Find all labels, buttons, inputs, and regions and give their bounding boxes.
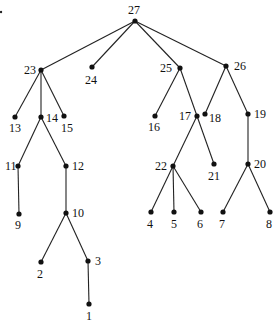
node-22 bbox=[170, 163, 175, 168]
edge-20-8 bbox=[248, 164, 270, 212]
node-6 bbox=[198, 209, 203, 214]
node-label-10: 10 bbox=[72, 206, 84, 220]
node-14 bbox=[38, 114, 43, 119]
node-label-6: 6 bbox=[197, 217, 203, 231]
node-label-13: 13 bbox=[9, 121, 21, 135]
node-16 bbox=[152, 113, 157, 118]
edge-25-16 bbox=[155, 68, 180, 116]
node-label-14: 14 bbox=[46, 111, 58, 125]
edge-26-18 bbox=[205, 66, 226, 114]
node-21 bbox=[211, 161, 216, 166]
node-24 bbox=[89, 64, 94, 69]
edge-20-7 bbox=[223, 164, 248, 212]
edge-10-3 bbox=[66, 213, 88, 261]
node-label-8: 8 bbox=[266, 217, 272, 231]
node-label-22: 22 bbox=[155, 159, 167, 173]
node-3 bbox=[85, 258, 90, 263]
edge-17-22 bbox=[173, 116, 197, 166]
edge-27-26 bbox=[135, 21, 226, 66]
edge-27-24 bbox=[92, 21, 135, 67]
node-label-3: 3 bbox=[95, 254, 101, 268]
corner-mark bbox=[0, 11, 2, 13]
tree-diagram: 2723242526131415161718191112222120910456… bbox=[0, 0, 273, 331]
node-2 bbox=[38, 259, 43, 264]
edge-22-6 bbox=[173, 166, 201, 212]
edges bbox=[15, 21, 270, 304]
node-25 bbox=[177, 65, 182, 70]
edge-22-5 bbox=[173, 166, 174, 212]
node-9 bbox=[16, 211, 21, 216]
node-label-5: 5 bbox=[171, 217, 177, 231]
edge-26-19 bbox=[226, 66, 248, 114]
node-label-2: 2 bbox=[37, 267, 43, 281]
node-label-1: 1 bbox=[86, 309, 92, 323]
node-label-7: 7 bbox=[219, 217, 225, 231]
node-label-27: 27 bbox=[128, 3, 140, 17]
edge-23-13 bbox=[15, 70, 41, 117]
edge-3-1 bbox=[88, 261, 89, 304]
node-label-17: 17 bbox=[179, 109, 191, 123]
node-26 bbox=[223, 63, 228, 68]
node-17 bbox=[194, 113, 199, 118]
node-4 bbox=[148, 209, 153, 214]
node-label-20: 20 bbox=[254, 157, 266, 171]
labels: 2723242526131415161718191112222120910456… bbox=[5, 3, 272, 323]
node-12 bbox=[63, 163, 68, 168]
node-20 bbox=[245, 161, 250, 166]
node-label-16: 16 bbox=[148, 120, 160, 134]
node-15 bbox=[61, 113, 66, 118]
node-label-26: 26 bbox=[234, 59, 246, 73]
node-label-9: 9 bbox=[15, 218, 21, 232]
node-label-19: 19 bbox=[254, 107, 266, 121]
node-13 bbox=[12, 114, 17, 119]
node-10 bbox=[63, 210, 68, 215]
node-8 bbox=[267, 209, 272, 214]
edge-27-25 bbox=[135, 21, 180, 68]
node-5 bbox=[171, 209, 176, 214]
node-23 bbox=[38, 67, 43, 72]
node-label-4: 4 bbox=[147, 217, 153, 231]
edge-27-23 bbox=[41, 21, 135, 70]
node-18 bbox=[202, 111, 207, 116]
node-label-25: 25 bbox=[160, 61, 172, 75]
node-label-15: 15 bbox=[61, 121, 73, 135]
edge-14-11 bbox=[18, 117, 41, 166]
node-label-12: 12 bbox=[72, 159, 84, 173]
node-1 bbox=[86, 301, 91, 306]
node-27 bbox=[132, 18, 137, 23]
edge-23-15 bbox=[41, 70, 64, 116]
edge-11-9 bbox=[18, 166, 19, 214]
node-label-11: 11 bbox=[5, 159, 17, 173]
tree-svg: 2723242526131415161718191112222120910456… bbox=[0, 0, 273, 331]
node-label-23: 23 bbox=[24, 63, 36, 77]
node-7 bbox=[220, 209, 225, 214]
node-label-18: 18 bbox=[209, 111, 221, 125]
node-19 bbox=[245, 111, 250, 116]
edge-10-2 bbox=[41, 213, 66, 262]
node-label-24: 24 bbox=[85, 73, 97, 87]
node-label-21: 21 bbox=[208, 169, 220, 183]
